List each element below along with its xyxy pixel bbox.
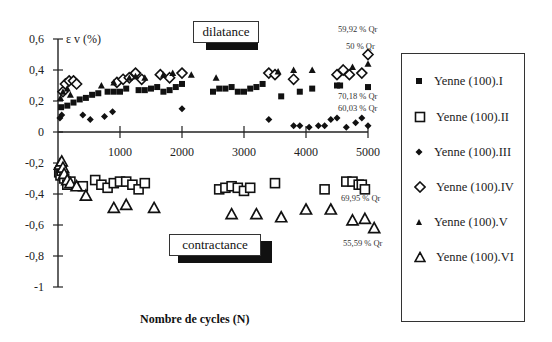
filled-diamond-icon [414,147,424,157]
data-point [77,96,83,102]
data-point [320,185,329,194]
annotation-qr-5: 69,95 % Qr [341,193,380,203]
x-tick-label: 4000 [294,145,318,159]
data-point [179,81,185,87]
data-point [309,86,315,92]
data-point [149,202,160,212]
data-point [98,82,105,89]
data-point [315,122,322,129]
data-point [140,179,149,188]
legend-item-6: Yenne (100).VI [402,247,514,267]
legend-item-5: Yenne (100).V [402,212,508,232]
data-point [173,84,179,90]
data-point [160,89,166,95]
data-point [251,209,262,219]
data-point [349,63,356,70]
x-tick-label: 5000 [356,145,380,159]
data-point [235,89,241,95]
y-tick-label: -0,4 [25,187,44,201]
data-point [301,204,312,214]
data-point [167,87,173,93]
legend-label: Yenne (100).VI [436,250,514,265]
data-point [276,212,287,222]
y-tick-label: 0 [38,125,44,139]
data-point [117,89,123,95]
data-point [306,124,313,131]
data-point [309,67,316,74]
annotation-qr-2: 50 % Qr [346,41,375,51]
data-point [71,100,77,106]
data-point [109,108,116,115]
data-point [79,111,86,118]
data-point [247,86,253,92]
data-point [337,83,343,89]
data-point [357,68,367,78]
data-point [89,92,95,98]
data-point [222,86,228,92]
data-point [347,215,358,225]
data-point [179,105,186,112]
data-point [154,84,160,90]
legend-label: Yenne (100).IV [436,180,514,195]
data-point [136,87,142,93]
open-triangle-icon [414,251,426,263]
data-point [278,93,284,99]
data-point [87,116,94,123]
data-point [241,89,247,95]
data-point [352,119,359,126]
data-point [229,84,235,90]
legend-label: Yenne (100).II [436,110,509,125]
legend-label: Yenne (100).III [434,145,511,160]
data-point [101,113,108,120]
data-point [321,122,328,129]
data-point [358,115,365,122]
y-tick-label: 0,4 [29,63,44,77]
y-tick-label: 0,6 [29,32,44,46]
data-point [216,86,222,92]
data-point [121,199,132,209]
data-point [297,89,303,95]
filled-triangle-icon [414,217,424,227]
data-point [142,87,148,93]
data-point [289,74,299,84]
legend-label: Yenne (100).V [434,215,508,230]
x-axis-label: Nombre de cycles (N) [140,312,249,327]
y-axis-label: ε v (%) [66,32,101,46]
legend-item-2: Yenne (100).II [402,107,509,127]
open-square-icon [414,111,426,123]
data-point [271,179,280,188]
data-point [177,68,187,78]
data-point [188,71,195,78]
legend-label: Yenne (100).I [434,74,503,89]
data-point [327,116,334,123]
data-point [83,95,89,101]
data-point [246,183,255,192]
annotation-qr-6: 55,59 % Qr [343,238,382,248]
data-point [334,115,341,122]
y-tick-label: -0,8 [25,249,44,263]
data-point [265,116,272,123]
data-point [108,202,119,212]
legend: Yenne (100).I Yenne (100).II Yenne (100)… [401,53,525,322]
data-point [148,86,154,92]
data-point [290,122,297,129]
data-point [123,86,129,92]
x-tick-label: 2000 [170,145,194,159]
data-point [111,89,117,95]
data-point [359,213,370,223]
data-point [105,89,111,95]
data-point [363,50,373,60]
data-point [210,89,216,95]
y-tick-label: -1 [34,280,44,294]
data-point [260,81,266,87]
annotation-qr-4: 60,03 % Qr [338,103,377,113]
x-tick-label: 1000 [108,145,132,159]
data-point [365,60,372,67]
data-point [226,209,237,219]
data-point [343,124,350,131]
legend-item-3: Yenne (100).III [402,142,511,162]
y-tick-label: -0,2 [25,156,44,170]
data-point [325,204,336,214]
legend-item-1: Yenne (100).I [402,71,503,91]
dilatance-label: dilatance [193,21,259,43]
